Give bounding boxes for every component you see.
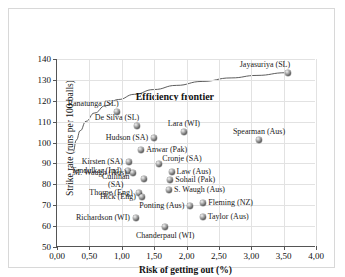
y-axis-tick [53,80,57,81]
y-axis-tick [53,122,57,123]
x-axis-tick-label: 3,00 [243,251,259,261]
x-axis-tick-label: 2,50 [211,251,227,261]
x-axis-tick-label: 1,00 [114,251,130,261]
plot-area: Efficiency frontier 50607080901001101201… [56,59,315,247]
x-axis-tick [284,246,285,250]
x-axis-tick-label: 0,00 [49,251,65,261]
data-point-label: Taylor (Aus) [208,213,249,221]
efficiency-frontier-label: Efficiency frontier [136,90,214,101]
data-point-label: Spearman (Aus) [233,128,285,136]
data-point-marker[interactable] [126,159,132,165]
y-axis-tick [53,205,57,206]
data-point-label: Jayasuriya (SL) [240,61,290,69]
data-point-marker[interactable] [169,169,175,175]
gridline-vertical [251,59,252,246]
data-point-marker[interactable] [133,215,139,221]
data-point-marker[interactable] [138,147,144,153]
y-axis-tick-label: 80 [42,179,51,189]
y-axis-tick-label: 100 [38,138,52,148]
x-axis-tick [219,246,220,250]
data-point-label: Fleming (NZ) [208,199,253,207]
data-point-label: Sohail (Pak) [175,175,215,183]
data-point-marker[interactable] [181,129,187,135]
data-point-marker[interactable] [200,200,206,206]
x-axis-tick [251,246,252,250]
data-point-label: Hick (Eng) [100,193,136,201]
data-point-marker[interactable] [166,187,172,193]
y-axis-tick-label: 140 [38,54,52,64]
gridline-vertical [284,59,285,246]
y-axis-tick [53,101,57,102]
data-point-label: Ponting (Aus) [139,202,184,210]
data-point-marker[interactable] [139,194,145,200]
y-axis-tick [53,59,57,60]
gridline-vertical [316,59,317,246]
data-point-label: Cronje (SA) [162,155,201,163]
x-axis-tick [122,246,123,250]
y-axis-tick-label: 90 [42,158,51,168]
data-point-marker[interactable] [134,123,140,129]
x-axis-tick [316,246,317,250]
x-axis-tick [89,246,90,250]
y-axis-tick-label: 70 [42,200,51,210]
data-point-marker[interactable] [151,135,157,141]
x-axis-tick-label: 2,00 [179,251,195,261]
x-axis-tick [154,246,155,250]
data-point-label: Anwar (Pak) [146,146,187,154]
x-axis-tick-label: 4,00 [308,251,324,261]
y-axis-tick [53,163,57,164]
y-axis-tick-label: 110 [38,117,51,127]
data-point-label: Hudson (SA) [106,134,148,142]
y-axis-tick [53,226,57,227]
chart-frame: Strike rate (runs per 100 balls) Risk of… [8,8,335,268]
data-point-marker[interactable] [200,214,206,220]
data-point-label: Chanderpaul (WI) [136,231,194,239]
data-point-marker[interactable] [141,176,147,182]
data-point-marker[interactable] [285,70,291,76]
x-axis-tick [187,246,188,250]
data-point-marker[interactable] [162,224,168,230]
data-point-marker[interactable] [256,137,262,143]
x-axis-tick [57,246,58,250]
y-axis-tick-label: 120 [38,96,52,106]
y-axis-tick-label: 130 [38,75,52,85]
data-point-label: De Silva (SL) [95,114,139,122]
x-axis-title: Risk of getting out (%) [56,265,315,275]
y-axis-tick [53,184,57,185]
data-point-label: Richardson (WI) [76,214,130,222]
y-axis-tick-label: 60 [42,221,51,231]
x-axis-tick-label: 0,50 [82,251,98,261]
x-axis-tick-label: 3,50 [276,251,292,261]
y-axis-tick [53,143,57,144]
x-axis-tick-label: 1,50 [146,251,162,261]
data-point-label: Lara (WI) [168,120,200,128]
data-point-marker[interactable] [167,177,173,183]
data-point-label: S. Waugh (Aus) [174,185,225,193]
data-point-label: Ranatunga (SL) [68,100,119,108]
data-point-marker[interactable] [187,203,193,209]
